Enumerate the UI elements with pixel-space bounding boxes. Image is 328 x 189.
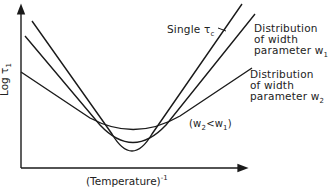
label-single-tau-c: Single τc	[167, 24, 215, 40]
x-axis-label: (Temperature)-1	[86, 174, 168, 187]
label-width-w1: Distribution of width parameter w1	[254, 23, 328, 61]
label-width-w2: Distribution of width parameter w2	[250, 69, 324, 107]
y-axis-label: Log τ1	[0, 63, 13, 96]
annotation-w2-less-w1: (w2<w1)	[189, 118, 232, 134]
